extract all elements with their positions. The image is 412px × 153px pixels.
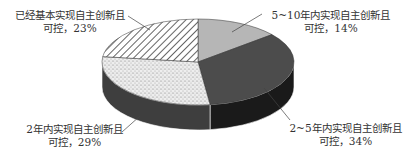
label-line2: 可控，14% bbox=[256, 22, 406, 35]
label-already-achieved: 已经基本实现自主创新且 可控，23% bbox=[4, 9, 136, 35]
pie-body bbox=[102, 19, 294, 130]
label-line2: 可控，29% bbox=[12, 136, 137, 149]
label-line1: 5~10年内实现自主创新且 bbox=[256, 9, 406, 22]
label-within-2-years: 2年内实现自主创新且 可控，29% bbox=[12, 123, 137, 149]
label-line1: 2~5年内实现自主创新且 bbox=[283, 122, 408, 135]
label-line2: 可控，34% bbox=[283, 135, 408, 148]
label-line2: 可控，23% bbox=[4, 22, 136, 35]
label-line1: 已经基本实现自主创新且 bbox=[4, 9, 136, 22]
label-2-5-years: 2~5年内实现自主创新且 可控，34% bbox=[283, 122, 408, 148]
label-5-10-years: 5~10年内实现自主创新且 可控，14% bbox=[256, 9, 406, 35]
label-line1: 2年内实现自主创新且 bbox=[12, 123, 137, 136]
